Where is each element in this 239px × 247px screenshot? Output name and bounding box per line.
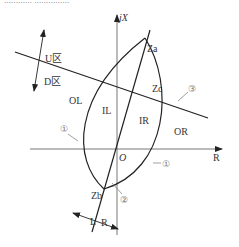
impedance-diagram: ………… …………… jX R O Za Zc Zb U区 D区 OL IL I… xyxy=(0,0,239,247)
zb-label: Zb xyxy=(91,190,102,201)
r-axis-label: R xyxy=(213,152,220,163)
marker-1-right: ① xyxy=(162,159,170,169)
zc-label: Zc xyxy=(152,83,163,94)
d-zone-label: D区 xyxy=(44,76,61,87)
marker-2: ② xyxy=(120,195,128,205)
leader-1-left xyxy=(68,134,78,141)
leader-3 xyxy=(178,92,188,101)
ir-region-label: IR xyxy=(139,115,149,126)
marker-1-left: ① xyxy=(60,124,68,134)
jx-axis-label: jX xyxy=(117,12,129,23)
right-arc xyxy=(104,38,162,189)
za-label: Za xyxy=(147,43,158,54)
ol-region-label: OL xyxy=(69,95,82,106)
il-region-label: IL xyxy=(102,105,111,116)
or-region-label: OR xyxy=(174,126,188,137)
marker-3: ③ xyxy=(188,84,196,94)
origin-label: O xyxy=(119,152,126,163)
left-direction-label: L xyxy=(90,216,96,227)
clipped-caption: ………… …………… xyxy=(4,0,69,5)
u-zone-label: U区 xyxy=(45,53,62,64)
right-direction-label: R xyxy=(101,217,108,228)
ud-double-arrow xyxy=(34,30,44,91)
left-arc xyxy=(84,38,145,189)
